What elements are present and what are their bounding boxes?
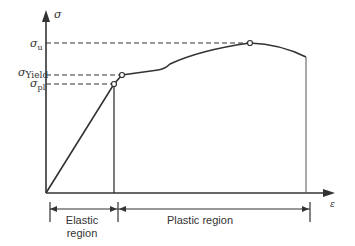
- y-axis-label: σ: [54, 8, 62, 21]
- elastic-region-label-line2: region: [67, 227, 98, 239]
- arrow-right-icon: [302, 206, 309, 212]
- x-axis-arrow-icon: [323, 189, 335, 197]
- sigma-u-label: σu: [30, 37, 43, 52]
- proportional-limit-point-icon: [112, 82, 117, 87]
- stress-strain-curve: [46, 43, 306, 193]
- x-axis: ε: [46, 189, 335, 209]
- key-points: [112, 41, 253, 87]
- arrow-left-icon: [50, 206, 57, 212]
- yield-point-icon: [120, 73, 125, 78]
- ultimate-point-icon: [248, 41, 253, 46]
- stress-labels: σu σYield σpl: [18, 37, 48, 92]
- arrow-right-icon: [110, 206, 117, 212]
- plastic-region-label: Plastic region: [167, 214, 233, 226]
- arrow-left-icon: [119, 206, 126, 212]
- y-axis: σ: [42, 8, 62, 193]
- elastic-region-label-line1: Elastic: [66, 214, 99, 226]
- x-axis-label: ε: [330, 199, 335, 209]
- stress-strain-diagram: σ ε σu σYield σpl: [0, 0, 355, 246]
- y-axis-arrow-icon: [42, 10, 50, 22]
